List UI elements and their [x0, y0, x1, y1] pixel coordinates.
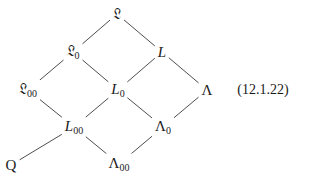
- node-lambda: Λ: [199, 81, 216, 100]
- node-lambda-00: Λ00: [106, 154, 133, 175]
- node-lambda-0: Λ0: [152, 117, 174, 138]
- node-symbol: 𝔏: [67, 43, 75, 59]
- node-symbol: 𝔏: [19, 81, 27, 97]
- node-symbol: 𝔏: [113, 6, 121, 22]
- equation-number: (12.1.22): [237, 82, 288, 98]
- node-L: L: [155, 43, 169, 62]
- node-L-0: L0: [108, 80, 127, 101]
- node-symbol: Λ: [155, 118, 166, 134]
- node-fraktur-L-00: 𝔏00: [16, 80, 40, 101]
- node-subscript: 0: [166, 125, 171, 136]
- node-symbol: Λ: [109, 155, 120, 171]
- node-symbol: L: [158, 44, 166, 60]
- node-subscript: 00: [27, 88, 37, 99]
- node-subscript: 00: [73, 125, 83, 136]
- node-fraktur-L-0: 𝔏0: [64, 42, 83, 63]
- node-fraktur-L: 𝔏: [110, 5, 124, 24]
- node-subscript: 0: [75, 50, 80, 61]
- node-L-00: L00: [62, 117, 86, 138]
- node-symbol: Λ: [202, 82, 213, 98]
- node-Q: Q: [3, 156, 20, 175]
- node-symbol: Q: [6, 157, 17, 173]
- node-subscript: 0: [120, 88, 125, 99]
- node-subscript: 00: [119, 162, 129, 173]
